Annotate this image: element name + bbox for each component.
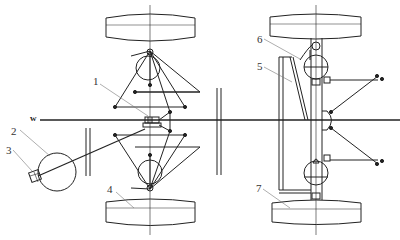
steering-schematic-diagram <box>0 0 400 240</box>
callout-1: 1 <box>93 76 99 87</box>
left-bottom-wheel <box>106 199 195 226</box>
steering-gear-box <box>143 112 170 131</box>
axis-label-w: w <box>30 114 37 123</box>
steering-knuckle-arm <box>300 45 312 60</box>
break-marks-center <box>217 88 221 175</box>
right-bottom-wheel <box>272 200 361 225</box>
steering-column <box>29 129 145 191</box>
callout-2: 2 <box>11 126 17 137</box>
break-marks-left <box>86 128 90 176</box>
callout-6: 6 <box>257 34 263 45</box>
upper-linkage <box>113 49 200 114</box>
callout-7: 7 <box>256 183 262 194</box>
lower-linkage <box>113 129 200 191</box>
right-top-wheel <box>270 14 361 39</box>
callout-4: 4 <box>107 184 113 195</box>
callout-5: 5 <box>257 61 263 72</box>
left-top-wheel <box>106 14 195 41</box>
callout-3: 3 <box>6 145 12 156</box>
